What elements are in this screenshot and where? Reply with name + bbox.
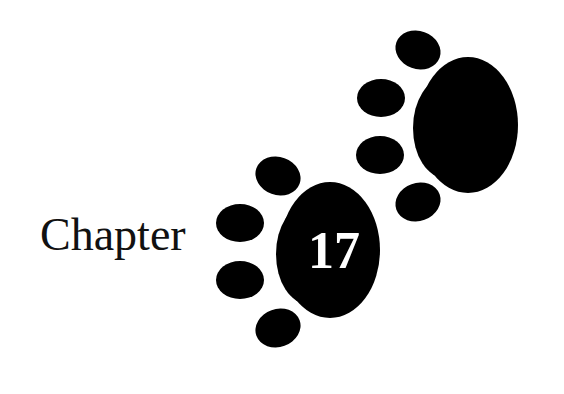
chapter-number: 17 bbox=[308, 222, 360, 279]
paw-prints: 17 bbox=[0, 0, 564, 394]
paw-print-icon-upper bbox=[356, 24, 518, 227]
